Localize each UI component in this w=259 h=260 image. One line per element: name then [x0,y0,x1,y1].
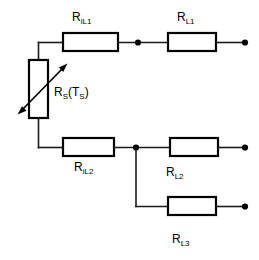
resistor-r-l3 [168,197,216,215]
label-r-l2-main: R [166,165,175,179]
label-r-l1: RL1 [177,11,195,23]
resistor-r-l2 [170,138,218,156]
terminal-dot-l3 [242,203,248,209]
label-r-s: RS(TS) [54,86,89,98]
terminal-dot-l2 [242,144,248,150]
label-r-l2: RL2 [166,166,184,178]
resistor-r-il1 [63,33,118,51]
label-r-il2: RiL2 [74,161,93,173]
label-r-l1-sub: L1 [186,17,195,26]
label-r-s-paren-close: ) [85,85,89,99]
label-r-s-paren-sub: S [79,92,84,101]
label-r-il1-main: R [72,10,81,24]
resistor-r-s-sensor-body [29,60,48,118]
junction-node-top [135,39,141,45]
label-r-l3-sub: L3 [181,239,190,248]
label-r-l3: RL3 [172,233,190,245]
label-r-s-main: R [54,85,63,99]
label-r-l3-main: R [172,232,181,246]
resistor-r-il2 [63,138,114,156]
label-r-il2-main: R [74,160,83,174]
label-r-l2-sub: L2 [175,172,184,181]
circuit-diagram-canvas: RiL1 RL1 RS(TS) RiL2 RL2 RL3 [0,0,259,260]
label-r-l1-main: R [177,10,186,24]
label-r-s-sub: S [63,92,68,101]
label-r-il1-sub: iL1 [81,17,92,26]
label-r-il2-sub: iL2 [83,167,94,176]
label-r-il1: RiL1 [72,11,91,23]
resistor-r-l1 [168,33,216,51]
circuit-schematic-svg [0,0,259,260]
terminal-dot-l1 [242,39,248,45]
label-r-s-paren-open: (T [68,85,79,99]
